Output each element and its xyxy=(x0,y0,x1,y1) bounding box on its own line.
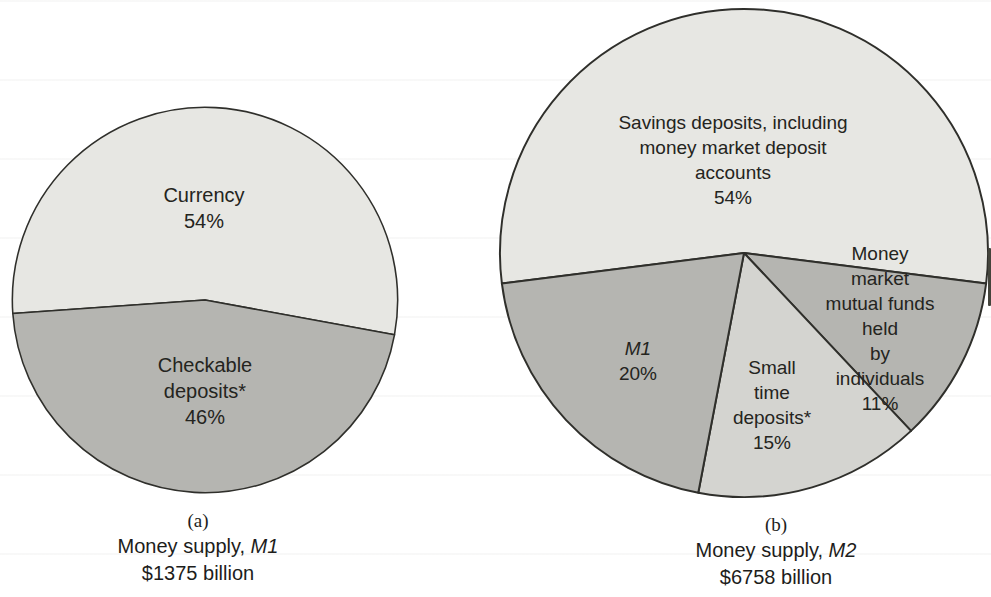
figure-money-supply-pies: Currency 54% Checkable deposits* 46% Sav… xyxy=(0,0,991,597)
label-currency-text: Currency xyxy=(163,182,244,208)
label-small-time-deposits: Small time deposits* 15% xyxy=(733,355,811,455)
chart-b-caption: (b) Money supply, M2 $6758 billion xyxy=(696,512,857,590)
label-checkable-deposits: Checkable deposits* 46% xyxy=(158,352,253,430)
chart-b-total: $6758 billion xyxy=(696,564,857,590)
label-small-time-deposits-pct: 15% xyxy=(733,430,811,455)
label-checkable-deposits-pct: 46% xyxy=(158,404,253,430)
chart-a-title-prefix: Money supply, xyxy=(118,535,251,557)
chart-a-caption: (a) Money supply, M1 $1375 billion xyxy=(118,508,279,586)
label-money-market-funds-pct: 11% xyxy=(825,391,936,416)
label-checkable-deposits-text: Checkable deposits* xyxy=(158,352,253,404)
chart-a-part-label: (a) xyxy=(118,508,279,533)
label-savings-deposits: Savings deposits, including money market… xyxy=(604,110,862,210)
chart-a-title: Money supply, M1 xyxy=(118,533,279,560)
label-savings-deposits-text: Savings deposits, including money market… xyxy=(604,110,862,185)
label-small-time-deposits-text: Small time deposits* xyxy=(733,355,811,430)
label-savings-deposits-pct: 54% xyxy=(604,185,862,210)
chart-b-title-m2: M2 xyxy=(829,539,857,561)
label-money-market-funds: Money market mutual funds held by indivi… xyxy=(825,241,936,416)
chart-a-total: $1375 billion xyxy=(118,560,279,586)
chart-b-title: Money supply, M2 xyxy=(696,537,857,564)
chart-b-part-label: (b) xyxy=(696,512,857,537)
chart-a-title-m1: M1 xyxy=(251,535,279,557)
pie-chart-a: Currency 54% Checkable deposits* 46% xyxy=(10,105,400,495)
label-m1: M1 20% xyxy=(619,336,657,386)
label-m1-pct: 20% xyxy=(619,361,657,386)
pie-a-svg xyxy=(10,105,400,495)
label-money-market-funds-text: Money market mutual funds held by indivi… xyxy=(825,241,936,391)
label-currency-pct: 54% xyxy=(163,208,244,234)
label-m1-text: M1 xyxy=(619,336,657,361)
chart-b-title-prefix: Money supply, xyxy=(696,539,829,561)
label-currency: Currency 54% xyxy=(163,182,244,234)
pie-chart-b: Savings deposits, including money market… xyxy=(497,6,991,500)
